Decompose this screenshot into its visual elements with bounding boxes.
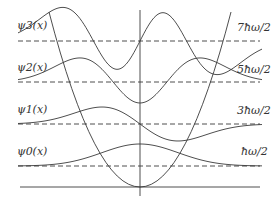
energy-label-1: 3ħω/2 bbox=[237, 104, 271, 117]
energy-label-2: 5ħω/2 bbox=[237, 63, 271, 76]
energy-label-3: 7ħω/2 bbox=[237, 21, 271, 34]
wavefunction-label-2: ψ2(x) bbox=[17, 61, 47, 74]
harmonic-oscillator-diagram: ψ3(x) ψ2(x) ψ1(x) ψ0(x) 7ħω/2 5ħω/2 3ħω/… bbox=[0, 0, 279, 201]
energy-label-0: ħω/2 bbox=[241, 145, 268, 158]
wavefunction-label-0: ψ0(x) bbox=[17, 145, 47, 158]
wavefunction-label-1: ψ1(x) bbox=[17, 103, 47, 116]
wavefunction-label-3: ψ3(x) bbox=[17, 19, 47, 32]
